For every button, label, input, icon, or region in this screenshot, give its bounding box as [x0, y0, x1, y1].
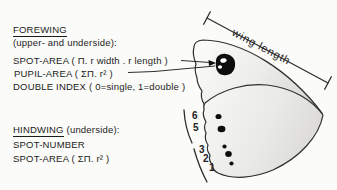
hindwing-spot-3	[222, 144, 226, 148]
measure-tick-start	[204, 12, 211, 24]
forewing-eyespot	[216, 54, 235, 75]
vein-number-5: 5	[193, 123, 199, 132]
vein-number-1: 1	[209, 163, 215, 172]
wing-drawing	[0, 0, 337, 190]
eyespot-pupil-lower	[218, 65, 222, 68]
vein-number-6: 6	[192, 111, 198, 120]
hindwing-spot-2	[225, 151, 232, 157]
vein-number-2: 2	[203, 154, 209, 163]
measure-tick-end	[325, 77, 332, 89]
vein-bracket-upper	[184, 110, 192, 143]
hindwing-spot-5	[218, 126, 226, 133]
hindwing-spot-1	[229, 161, 233, 165]
hindwing-spot-6	[216, 114, 222, 119]
figure-wing-measurement-diagram: FOREWING (upper- and underside): SPOT-AR…	[0, 0, 337, 190]
